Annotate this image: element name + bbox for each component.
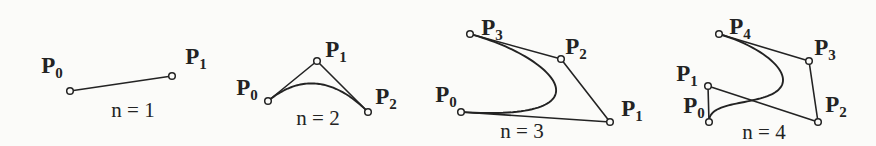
control-point-p4	[716, 31, 723, 38]
control-polygon-n4	[708, 34, 818, 122]
bezier-curve-n4	[709, 34, 783, 122]
point-label-p2: P2	[825, 92, 847, 120]
degree-caption-n1: n = 1	[111, 98, 154, 122]
bezier-curve-n3	[461, 34, 556, 113]
control-point-p3	[806, 58, 813, 65]
control-point-p2	[558, 56, 565, 63]
control-point-p2	[365, 109, 372, 116]
point-label-p3: P3	[481, 15, 503, 43]
point-label-p3: P3	[814, 35, 836, 63]
control-point-p1	[705, 83, 712, 90]
control-point-p0	[458, 109, 465, 116]
control-point-p3	[467, 31, 474, 38]
bezier-curves-figure: P0P1n = 1P0P1P2n = 2P0P1P2P3n = 3P0P1P2P…	[0, 0, 876, 146]
control-point-p1	[607, 119, 614, 126]
control-point-p2	[815, 119, 822, 126]
point-label-p2: P2	[375, 84, 397, 112]
figure-canvas: P0P1n = 1P0P1P2n = 2P0P1P2P3n = 3P0P1P2P…	[0, 0, 876, 146]
point-label-p0: P0	[435, 82, 457, 110]
control-point-p0	[706, 119, 713, 126]
point-label-p1: P1	[325, 37, 347, 65]
control-point-p0	[67, 88, 74, 95]
point-label-p4: P4	[729, 14, 751, 42]
degree-caption-n4: n = 4	[742, 120, 786, 144]
control-polygon-n2	[268, 61, 368, 112]
point-label-p1: P1	[676, 61, 698, 89]
point-label-p0: P0	[683, 93, 705, 121]
bezier-panel-n2: P0P1P2n = 2	[236, 37, 397, 130]
control-point-p0	[265, 98, 272, 105]
degree-caption-n2: n = 2	[296, 106, 339, 130]
control-polygon-n1	[70, 76, 172, 91]
point-label-p0: P0	[236, 75, 258, 103]
point-label-p1: P1	[621, 96, 643, 124]
degree-caption-n3: n = 3	[500, 119, 543, 143]
bezier-panel-n3: P0P1P2P3n = 3	[435, 15, 643, 143]
control-point-p1	[314, 58, 321, 65]
control-point-p1	[169, 73, 176, 80]
point-label-p1: P1	[185, 44, 207, 72]
bezier-panel-n1: P0P1n = 1	[41, 44, 207, 122]
bezier-panel-n4: P0P1P2P3P4n = 4	[676, 14, 847, 144]
point-label-p2: P2	[565, 34, 587, 62]
point-label-p0: P0	[41, 53, 63, 81]
